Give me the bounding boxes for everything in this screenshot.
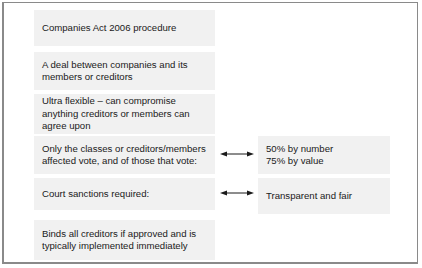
box-deal-description: A deal between companies and its members… <box>34 52 215 90</box>
box-text: 50% by number 75% by value <box>266 143 333 168</box>
box-text: Companies Act 2006 procedure <box>42 22 176 34</box>
box-text: A deal between companies and its members… <box>42 59 188 84</box>
box-text: Binds all creditors if approved and is t… <box>42 228 196 253</box>
box-text: Court sanctions required: <box>42 188 149 200</box>
box-binding-effect: Binds all creditors if approved and is t… <box>34 220 215 260</box>
box-transparent-fair: Transparent and fair <box>258 178 390 214</box>
box-majority-thresholds: 50% by number 75% by value <box>258 136 390 174</box>
box-text: Only the classes or creditors/members af… <box>42 143 206 168</box>
box-voting-classes: Only the classes or creditors/members af… <box>34 136 215 174</box>
box-flexibility: Ultra flexible – can compromise anything… <box>34 94 215 134</box>
double-headed-arrow-icon <box>220 189 254 197</box>
box-court-sanction: Court sanctions required: <box>34 178 215 210</box>
box-text: Transparent and fair <box>266 190 352 202</box>
box-text: Ultra flexible – can compromise anything… <box>42 95 190 132</box>
double-headed-arrow-icon <box>220 150 254 158</box>
box-procedure-title: Companies Act 2006 procedure <box>34 10 215 46</box>
